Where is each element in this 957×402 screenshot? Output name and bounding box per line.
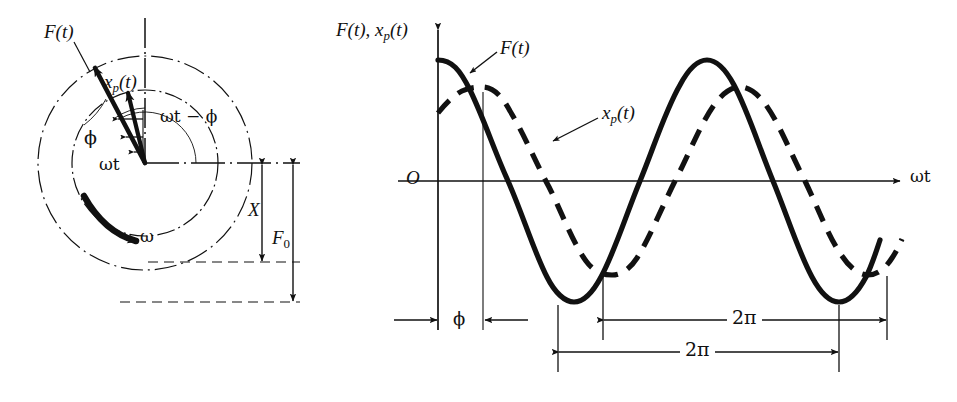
phasor-diagram: [38, 18, 300, 302]
x-axis-label: ωt: [910, 168, 931, 185]
period-dimension-response-label: 2π: [727, 308, 762, 327]
response-phasor-label: xp(t): [104, 72, 137, 95]
figure-svg: [0, 0, 957, 402]
omega-rotation-label: ω: [140, 228, 154, 245]
X-amplitude-label: X: [248, 200, 260, 219]
omega-rotation-arrow: [84, 196, 136, 241]
force-curve-label-leader: [470, 52, 497, 73]
figure-root: F(t) xp(t) ωt − ϕ ϕ ωt ω X F0 F(t), xp(t…: [0, 0, 957, 402]
force-curve-label: F(t): [500, 38, 530, 57]
omega-t-minus-phi-angle-label: ωt − ϕ: [160, 108, 217, 125]
omega-t-angle-label: ωt: [99, 156, 120, 173]
F0-amplitude-label: F0: [272, 228, 290, 251]
response-curve-label-leader: [553, 118, 598, 141]
phi-angle-arc: [84, 99, 106, 125]
phi-angle-label: ϕ: [84, 128, 97, 147]
force-label-leader: [74, 42, 90, 72]
phi-dimension-label: ϕ: [453, 310, 465, 328]
wave-plot: [394, 30, 902, 372]
origin-label: O: [406, 168, 420, 187]
response-curve-label: xp(t): [602, 103, 635, 126]
period-dimension-force-label: 2π: [680, 340, 715, 359]
y-axis-label: F(t), xp(t): [336, 20, 408, 43]
force-phasor-label: F(t): [44, 22, 74, 41]
